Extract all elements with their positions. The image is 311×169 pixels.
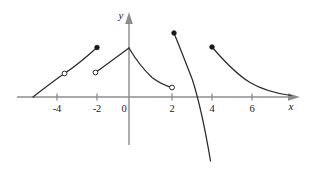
graph-canvas: -4 -2 2 4 6 0 x y bbox=[0, 0, 311, 169]
y-axis-label: y bbox=[118, 9, 124, 21]
tick-label-2: 2 bbox=[169, 103, 174, 114]
tick-label-minus-4: -4 bbox=[53, 103, 62, 114]
filled-dot-steep-branch-start bbox=[172, 31, 177, 36]
open-circle-at-x-minus-4 bbox=[62, 71, 67, 76]
curve-branch-3-decaying bbox=[129, 48, 172, 88]
tick-label-6: 6 bbox=[249, 103, 254, 114]
filled-dot-at-x-minus-2-upper bbox=[95, 45, 100, 50]
origin-label: 0 bbox=[121, 103, 126, 114]
filled-dot-at-x-4 bbox=[210, 45, 215, 50]
tick-label-minus-2: -2 bbox=[93, 103, 102, 114]
open-circle-at-x-2 bbox=[170, 85, 175, 90]
x-axis-label: x bbox=[288, 100, 294, 112]
tick-label-4: 4 bbox=[209, 103, 215, 114]
axes-group bbox=[17, 12, 300, 145]
endpoint-markers-group bbox=[62, 31, 214, 90]
piecewise-function-graph-figure: -4 -2 2 4 6 0 x y bbox=[0, 0, 311, 169]
curve-branch-5-right-decay bbox=[212, 47, 291, 96]
curve-branch-2-rising-to-peak bbox=[96, 48, 130, 73]
y-axis-arrowhead bbox=[125, 12, 133, 24]
x-axis-tick-labels: -4 -2 2 4 6 0 bbox=[53, 103, 255, 114]
open-circle-at-x-minus-2-lower bbox=[93, 70, 98, 75]
